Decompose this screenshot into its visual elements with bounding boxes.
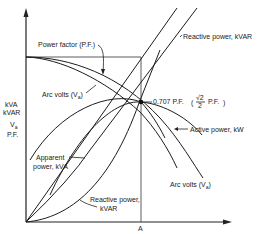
pf-formula-suffix: P.F.	[208, 98, 219, 105]
reactive-power-bottom-label-2: kVAR	[100, 205, 117, 212]
active-power-label: Active power, kW	[190, 126, 244, 134]
reactive-power-top-leader	[180, 35, 182, 37]
reactive-power-bottom-label-1: Reactive power,	[90, 196, 140, 204]
x-label-a: A	[138, 225, 143, 232]
arc-volts-upper-leader	[86, 85, 96, 93]
y-axis-arrow-icon	[24, 8, 29, 17]
y-label-kvar: kVAR	[3, 109, 20, 116]
pf-formula-open-paren: (	[191, 99, 194, 107]
y-label-kva: kVA	[5, 101, 18, 108]
power-factor-leader	[98, 45, 103, 72]
pf-formula-numerator: √2	[196, 94, 204, 101]
y-label-va: Va	[10, 121, 18, 130]
arc-volts-lower-label: Arc volts (Va)	[170, 181, 211, 190]
arc-volts-upper-label: Arc volts (Va)	[42, 91, 83, 100]
pf-formula-denominator: 2	[198, 102, 202, 109]
x-axis-arrow-icon	[223, 220, 232, 225]
pf-0707-marker	[139, 100, 144, 105]
reactive-power-top-label: Reactive power, kVAR	[183, 33, 252, 41]
active-power-arrow-icon	[174, 127, 178, 131]
power-factor-label: Power factor (P.F.)	[38, 41, 95, 49]
apparent-power-label-1: Apparent	[36, 154, 64, 162]
pf-formula-close-paren: )	[223, 99, 225, 107]
arc-volts-curve-lower	[30, 99, 165, 160]
pf-0707-label: 0.707 P.F.	[153, 98, 184, 105]
apparent-power-label-2: power, kVA	[33, 163, 68, 171]
y-label-pf: P.F.	[7, 131, 18, 138]
arc-characteristics-diagram: Power factor (P.F.) Arc volts (Va) Appar…	[0, 0, 257, 234]
